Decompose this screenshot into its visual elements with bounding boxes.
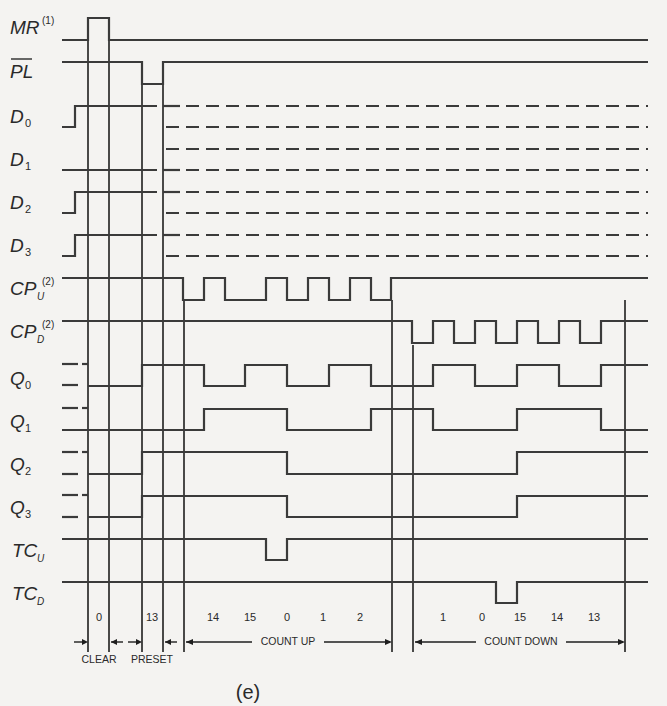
svg-text:13: 13	[588, 611, 600, 623]
svg-text:D: D	[10, 106, 24, 127]
svg-text:1: 1	[25, 160, 31, 172]
waveforms	[62, 18, 648, 603]
label-cpd: CP D (2)	[10, 319, 54, 345]
svg-text:2: 2	[357, 611, 363, 623]
svg-text:D: D	[10, 192, 24, 213]
wave-tcd	[62, 582, 648, 603]
wave-cpu	[62, 278, 648, 300]
svg-text:TC: TC	[12, 583, 38, 604]
svg-text:Q: Q	[10, 454, 25, 475]
svg-text:1: 1	[440, 611, 446, 623]
svg-text:U: U	[37, 291, 45, 302]
svg-text:3: 3	[25, 508, 31, 520]
svg-text:(2): (2)	[42, 319, 54, 330]
svg-text:1: 1	[320, 611, 326, 623]
label-cpu: CP U (2)	[10, 276, 54, 302]
label-tcd: TC D	[12, 583, 44, 607]
wave-cpd	[62, 321, 648, 343]
svg-text:14: 14	[207, 611, 219, 623]
svg-text:0: 0	[25, 117, 31, 129]
label-mr: MR (1)	[10, 15, 54, 38]
wave-pl	[62, 62, 648, 84]
svg-text:0: 0	[25, 379, 31, 391]
svg-text:U: U	[37, 553, 45, 564]
svg-text:CP: CP	[10, 278, 37, 299]
svg-text:D: D	[10, 235, 24, 256]
svg-text:14: 14	[551, 611, 563, 623]
svg-text:TC: TC	[12, 540, 38, 561]
label-tcu: TC U	[12, 540, 45, 564]
time-markers	[88, 40, 625, 652]
svg-text:2: 2	[25, 465, 31, 477]
svg-text:3: 3	[25, 246, 31, 258]
svg-text:D: D	[10, 149, 24, 170]
label-q2: Q 2	[10, 454, 31, 477]
signal-labels: MR (1) PL D 0 D 1 D 2 D 3 CP U (2) CP	[10, 15, 54, 607]
count-values: 0 13 14 15 0 1 2 1 0 15 14 13	[96, 611, 600, 623]
svg-text:CP: CP	[10, 321, 37, 342]
wave-mr	[62, 18, 648, 40]
svg-text:Q: Q	[10, 411, 25, 432]
svg-text:D: D	[37, 334, 44, 345]
label-d2: D 2	[10, 192, 31, 215]
phase-labels: CLEAR PRESET COUNT UP COUNT DOWN	[81, 635, 557, 665]
svg-text:PL: PL	[10, 61, 33, 82]
svg-text:MR: MR	[10, 17, 40, 38]
label-q0: Q 0	[10, 368, 31, 391]
timing-diagram-canvas: MR (1) PL D 0 D 1 D 2 D 3 CP U (2) CP	[0, 0, 667, 706]
label-d3: D 3	[10, 235, 31, 258]
svg-text:0: 0	[284, 611, 290, 623]
svg-text:0: 0	[479, 611, 485, 623]
svg-text:13: 13	[146, 611, 158, 623]
label-q1: Q 1	[10, 411, 31, 434]
timing-diagram: MR (1) PL D 0 D 1 D 2 D 3 CP U (2) CP	[0, 0, 667, 706]
svg-text:Q: Q	[10, 497, 25, 518]
label-q3: Q 3	[10, 497, 31, 520]
phase-count-down: COUNT DOWN	[484, 635, 557, 647]
svg-text:(2): (2)	[42, 276, 54, 287]
svg-text:15: 15	[244, 611, 256, 623]
label-pl: PL	[10, 59, 33, 82]
svg-text:Q: Q	[10, 368, 25, 389]
phase-count-up: COUNT UP	[261, 635, 316, 647]
svg-text:1: 1	[25, 422, 31, 434]
phase-preset: PRESET	[131, 653, 174, 665]
svg-text:0: 0	[96, 611, 102, 623]
wave-tcu	[62, 539, 648, 560]
phase-clear: CLEAR	[81, 653, 116, 665]
svg-text:(1): (1)	[42, 15, 54, 26]
label-d0: D 0	[10, 106, 31, 129]
svg-text:D: D	[37, 596, 44, 607]
svg-text:15: 15	[514, 611, 526, 623]
figure-caption: (e)	[236, 681, 260, 703]
label-d1: D 1	[10, 149, 31, 172]
svg-text:2: 2	[25, 203, 31, 215]
